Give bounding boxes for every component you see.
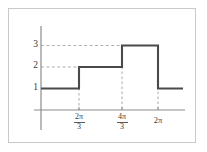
x-label-2-numerator: 4π xyxy=(109,113,135,122)
x-axis-label-2pi-over-3: 2π 3 xyxy=(66,113,92,132)
x-label-2-denominator: 3 xyxy=(109,123,135,132)
x-label-1-denominator: 3 xyxy=(66,123,92,132)
x-label-1-numerator: 2π xyxy=(66,113,92,122)
x-axis-label-4pi-over-3: 4π 3 xyxy=(109,113,135,132)
step-function-curve xyxy=(41,46,183,89)
y-axis-label-2: 2 xyxy=(26,61,38,71)
y-axis-label-1: 1 xyxy=(26,83,38,93)
y-axis-label-3: 3 xyxy=(26,40,38,50)
step-function-chart xyxy=(0,0,207,152)
x-axis-label-2pi: 2π xyxy=(145,116,171,125)
